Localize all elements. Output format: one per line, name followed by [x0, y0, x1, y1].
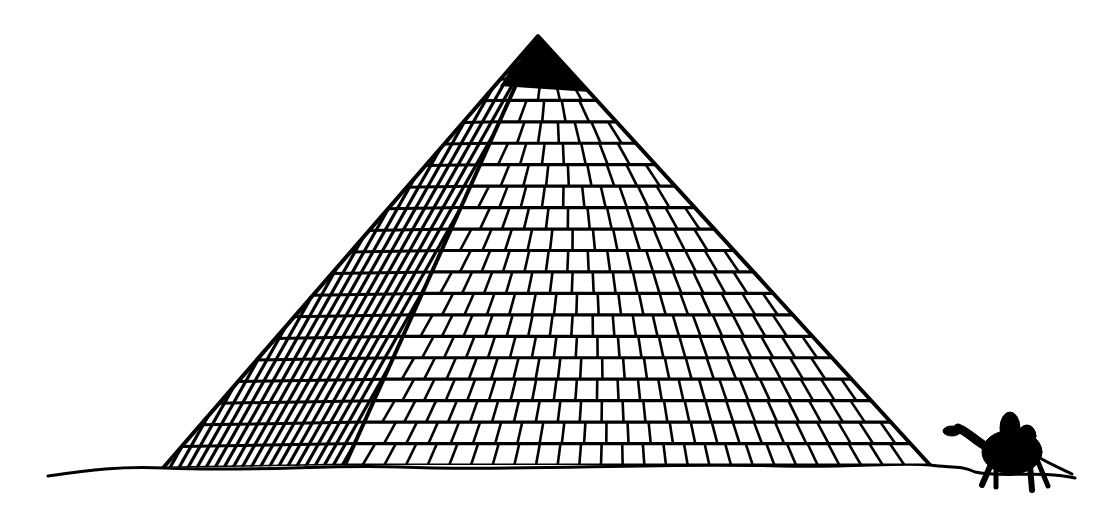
- pyramid-drawing: [0, 0, 1118, 523]
- camel-silhouette: [943, 412, 1072, 490]
